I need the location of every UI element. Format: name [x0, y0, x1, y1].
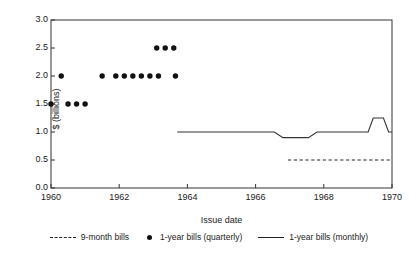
data-point-marker	[139, 73, 144, 78]
legend-item[interactable]: 1-year bills (monthly)	[258, 232, 368, 242]
data-point-marker	[173, 73, 178, 78]
data-point-marker	[99, 73, 104, 78]
data-point-marker	[147, 73, 152, 78]
plot-area	[0, 0, 418, 255]
data-point-marker	[74, 101, 79, 106]
legend-item-label: 1-year bills (monthly)	[289, 232, 368, 242]
series-layer	[48, 45, 392, 160]
data-point-marker	[154, 45, 159, 50]
data-point-marker	[48, 101, 53, 106]
data-point-marker	[113, 73, 118, 78]
legend-item-label: 1-year bills (quarterly)	[160, 232, 242, 242]
solid-series-line	[177, 118, 392, 138]
data-point-marker	[130, 73, 135, 78]
data-point-marker	[59, 73, 64, 78]
chart-legend: 9-month bills1-year bills (quarterly)1-y…	[0, 232, 418, 242]
filled-circle-icon	[145, 233, 155, 241]
legend-item[interactable]: 1-year bills (quarterly)	[145, 232, 242, 242]
data-point-marker	[122, 73, 127, 78]
dashed-line-icon	[50, 233, 76, 241]
tick-marks	[51, 20, 392, 188]
legend-item[interactable]: 9-month bills	[50, 232, 129, 242]
solid-line-icon	[258, 233, 284, 241]
data-point-marker	[163, 45, 168, 50]
legend-item-label: 9-month bills	[81, 232, 129, 242]
axes-frame	[51, 20, 392, 188]
chart-container: $ (billions) Issue date 0.00.51.01.52.02…	[0, 0, 418, 255]
data-point-marker	[171, 45, 176, 50]
data-point-marker	[82, 101, 87, 106]
data-point-marker	[65, 101, 70, 106]
data-point-marker	[156, 73, 161, 78]
